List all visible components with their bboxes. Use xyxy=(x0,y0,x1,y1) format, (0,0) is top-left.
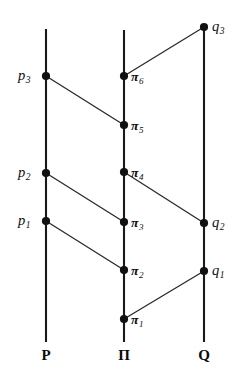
diagram-svg xyxy=(0,0,246,381)
node-dot-p2 xyxy=(42,169,50,177)
node-dot-p3 xyxy=(42,72,50,80)
node-label-subscript-pi6: 6 xyxy=(138,76,143,86)
node-label-p2: p2 xyxy=(18,165,31,183)
node-label-subscript-pi3: 3 xyxy=(138,222,143,232)
node-label-subscript-pi2: 2 xyxy=(138,270,143,280)
axis-label-p: P xyxy=(26,348,66,363)
node-label-subscript-p1: 1 xyxy=(25,220,30,230)
connector-p2-pi3 xyxy=(46,173,124,222)
node-dot-q2 xyxy=(200,219,208,227)
node-label-subscript-pi5: 5 xyxy=(138,125,143,135)
node-label-q2: q2 xyxy=(212,215,225,233)
node-label-q1: q1 xyxy=(212,263,225,281)
node-dot-p1 xyxy=(42,217,50,225)
node-dot-q1 xyxy=(200,267,208,275)
node-label-pi1: π1 xyxy=(131,313,144,329)
node-label-pi2: π2 xyxy=(131,264,144,280)
node-label-subscript-q3: 3 xyxy=(219,26,224,36)
node-dot-q3 xyxy=(200,23,208,31)
connector-p1-pi2 xyxy=(46,221,124,270)
node-dot-pi2 xyxy=(120,266,128,274)
node-label-pi5: π5 xyxy=(131,119,144,135)
axis-label-q: Q xyxy=(184,348,224,363)
node-label-subscript-p2: 2 xyxy=(25,172,30,182)
node-label-pi3: π3 xyxy=(131,216,144,232)
node-label-subscript-q2: 2 xyxy=(219,222,224,232)
node-dot-pi4 xyxy=(120,168,128,176)
node-label-pi6: π6 xyxy=(131,70,144,86)
node-label-pi4: π4 xyxy=(131,166,144,182)
node-label-subscript-pi4: 4 xyxy=(138,172,143,182)
node-label-subscript-p3: 3 xyxy=(25,75,30,85)
axis-label-pi: Π xyxy=(104,348,144,363)
node-dot-pi5 xyxy=(120,121,128,129)
node-label-p3: p3 xyxy=(18,68,31,86)
node-dot-pi6 xyxy=(120,72,128,80)
node-dot-pi3 xyxy=(120,218,128,226)
node-label-p1: p1 xyxy=(18,213,31,231)
diagram-canvas: p3p2p1π6π5π4π3π2π1q3q2q1 PΠQ xyxy=(0,0,246,381)
node-label-q3: q3 xyxy=(212,19,225,37)
node-label-subscript-q1: 1 xyxy=(219,270,224,280)
node-dot-pi1 xyxy=(120,315,128,323)
node-label-subscript-pi1: 1 xyxy=(138,319,143,329)
connector-p3-pi5 xyxy=(46,76,124,125)
